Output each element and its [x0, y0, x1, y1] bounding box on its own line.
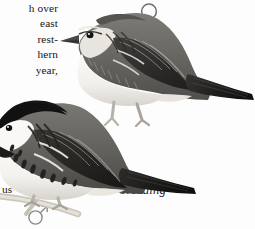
- bird-illustration-breeding: [0, 96, 222, 214]
- body-text-line-3: rest-: [0, 32, 62, 47]
- bird-eye: [87, 32, 94, 38]
- body-text-line-2: east: [0, 16, 62, 31]
- bird-bill: [60, 35, 79, 44]
- bird-eye: [6, 125, 12, 131]
- body-text-column: h over east rest- hern year,: [0, 0, 62, 78]
- illustration-plate: h over east rest- hern year, us breeding: [0, 0, 255, 229]
- bird-eye-highlight: [88, 33, 90, 35]
- body-text-line-1: h over: [0, 1, 62, 16]
- bird-eye-highlight: [7, 126, 9, 128]
- body-text-line-4: hern: [0, 47, 62, 62]
- body-text-line-5: year,: [0, 63, 62, 78]
